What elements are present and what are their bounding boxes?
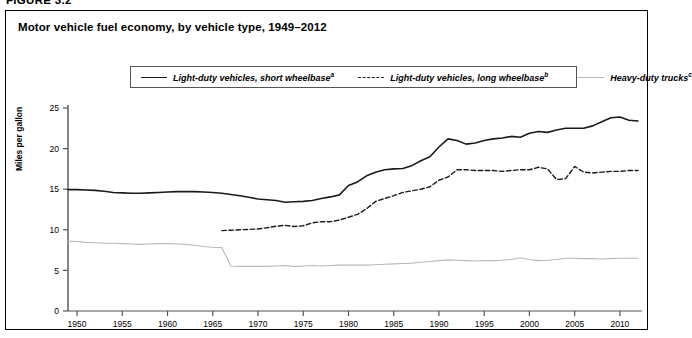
x-axis-tick-label: 1960 [158, 319, 177, 329]
x-axis-tick-label: 1990 [429, 319, 448, 329]
x-axis-tick-label: 1970 [249, 319, 268, 329]
x-axis-tick-label: 2005 [565, 319, 584, 329]
line-chart: 0510152025195019551960196519701975198019… [6, 11, 649, 331]
legend-footnote-c: c [688, 71, 692, 78]
x-axis-tick-label: 1955 [113, 319, 132, 329]
x-axis-tick-label: 1975 [294, 319, 313, 329]
x-axis-tick-label: 2000 [520, 319, 539, 329]
figure-panel: Motor vehicle fuel economy, by vehicle t… [5, 10, 648, 330]
x-axis-tick-label: 1980 [339, 319, 358, 329]
y-axis-tick-label: 0 [54, 306, 59, 316]
plot-area: Miles per gallon 05101520251950195519601… [6, 11, 649, 331]
data-series-line [222, 166, 638, 230]
x-axis-tick-label: 2010 [610, 319, 629, 329]
x-axis-tick-label: 1985 [384, 319, 403, 329]
data-series-line [68, 241, 638, 266]
y-axis-tick-label: 10 [50, 225, 60, 235]
x-axis-tick-label: 1965 [203, 319, 222, 329]
y-axis-tick-label: 15 [50, 184, 60, 194]
y-axis-tick-label: 20 [50, 144, 60, 154]
y-axis-tick-label: 5 [54, 266, 59, 276]
x-axis-tick-label: 1950 [68, 319, 87, 329]
y-axis-tick-label: 25 [50, 103, 60, 113]
x-axis-tick-label: 1995 [475, 319, 494, 329]
figure-number-caption: FIGURE 3.2 [6, 0, 72, 6]
data-series-line [68, 117, 638, 202]
